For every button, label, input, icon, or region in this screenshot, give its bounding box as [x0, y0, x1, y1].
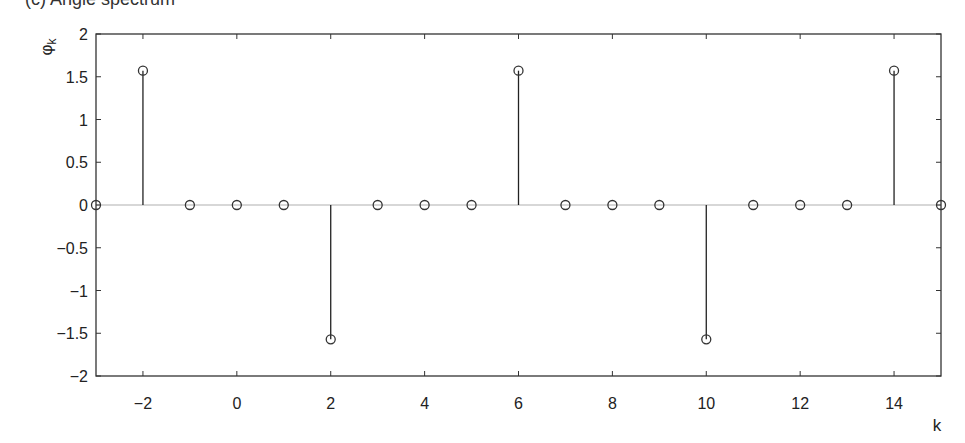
y-tick-label: −2 — [70, 368, 88, 385]
x-tick-label: 2 — [326, 395, 335, 412]
y-tick-label: −0.5 — [56, 240, 88, 257]
y-tick-label: −1 — [70, 283, 88, 300]
plot-area: −20246810121421.510.50−0.5−1−1.5−2kφk — [0, 0, 965, 443]
y-axis-label: φk — [37, 37, 59, 55]
x-tick-label: 4 — [420, 395, 429, 412]
stem-chart: (c) Angle spectrum −20246810121421.510.5… — [0, 0, 965, 443]
y-tick-label: 0.5 — [66, 154, 88, 171]
y-tick-label: 1.5 — [66, 69, 88, 86]
x-tick-label: 10 — [697, 395, 715, 412]
y-tick-label: 0 — [79, 197, 88, 214]
y-tick-label: −1.5 — [56, 325, 88, 342]
y-tick-label: 1 — [79, 112, 88, 129]
x-tick-label: −2 — [134, 395, 152, 412]
y-tick-label: 2 — [79, 26, 88, 43]
x-axis-label: k — [933, 416, 942, 435]
chart-title-clip: (c) Angle spectrum — [0, 0, 400, 12]
x-tick-label: 6 — [514, 395, 523, 412]
chart-title: (c) Angle spectrum — [25, 0, 175, 10]
x-tick-label: 14 — [885, 395, 903, 412]
x-tick-label: 8 — [608, 395, 617, 412]
x-tick-label: 0 — [232, 395, 241, 412]
x-tick-label: 12 — [791, 395, 809, 412]
